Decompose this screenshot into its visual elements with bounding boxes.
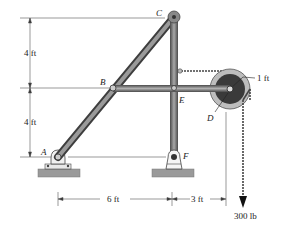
ground-support-a bbox=[38, 169, 80, 177]
dim-upper-vertical: 4 ft bbox=[24, 48, 37, 58]
label-f: F bbox=[182, 151, 189, 161]
dim-horizontal-right: 3 ft bbox=[191, 194, 204, 204]
label-d: D bbox=[206, 113, 214, 123]
pin-support-f bbox=[166, 150, 182, 169]
dim-horizontal-left: 6 ft bbox=[107, 194, 120, 204]
load-label: 300 lb bbox=[234, 211, 257, 221]
dimension-lines bbox=[20, 18, 226, 206]
dim-lower-vertical: 4 ft bbox=[24, 117, 37, 127]
label-a: A bbox=[40, 147, 47, 157]
pin-a bbox=[55, 154, 61, 160]
label-c: C bbox=[156, 8, 163, 18]
ground-support-f bbox=[152, 169, 194, 177]
frame-diagram: A B C D E F 4 ft 4 ft 6 ft 3 ft 1 ft 300… bbox=[0, 0, 291, 233]
load-arrow-icon bbox=[239, 196, 247, 208]
pin-b bbox=[110, 85, 116, 91]
pin-e bbox=[172, 86, 177, 91]
label-b: B bbox=[100, 77, 106, 87]
pin-d bbox=[227, 86, 233, 92]
dim-pulley-radius: 1 ft bbox=[257, 73, 270, 83]
label-e: E bbox=[178, 95, 185, 105]
